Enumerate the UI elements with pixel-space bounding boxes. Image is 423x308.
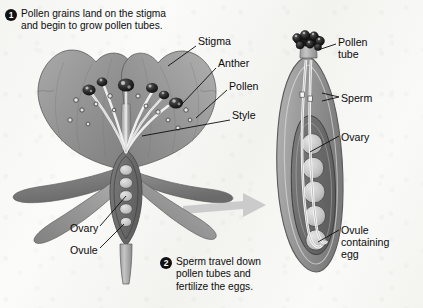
label-sperm: Sperm (341, 92, 372, 104)
caption-step-1-text: Pollen grains land on the stigma and beg… (21, 8, 166, 33)
caption-step-1: 1 Pollen grains land on the stigma and b… (5, 8, 210, 33)
label-ovary-flower: Ovary (70, 222, 98, 234)
flower-ovary (110, 150, 142, 284)
label-pollen: Pollen (229, 80, 258, 92)
pollen-grain-cluster (293, 30, 325, 50)
label-style: Style (232, 109, 256, 121)
label-stigma: Stigma (198, 35, 231, 47)
label-ovule-containing-egg: Ovule containing egg (341, 224, 389, 261)
step-number-badge: 1 (5, 9, 17, 21)
label-ovary-pistil: Ovary (341, 131, 369, 143)
caption-step-2-text: Sperm travel down pollen tubes and ferti… (176, 256, 261, 293)
pistil-cross-section (277, 30, 343, 272)
step-number-badge: 2 (160, 257, 172, 269)
label-pollen-tube: Pollen tube (338, 36, 367, 60)
caption-step-2: 2 Sperm travel down pollen tubes and fer… (160, 256, 290, 293)
label-ovule-flower: Ovule (70, 244, 98, 256)
label-anther: Anther (218, 57, 249, 69)
figure-canvas: 1 Pollen grains land on the stigma and b… (0, 0, 423, 308)
